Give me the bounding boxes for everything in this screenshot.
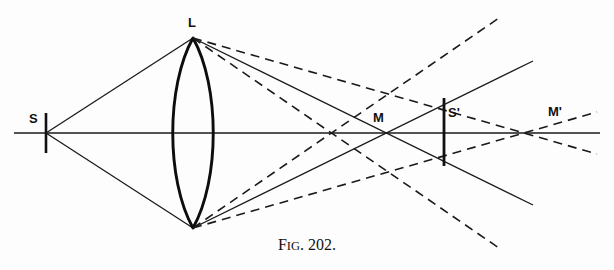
caption-smallcaps: IG [287,239,300,253]
label-axis-point-M: M [373,111,384,124]
caption-prefix: F [278,236,287,253]
caption-number: . 202. [300,236,336,253]
label-lens-L: L [188,16,196,29]
incident-ray-upper [46,38,193,133]
label-axis-point-M-prime: M' [548,105,562,118]
dashed-ray-bottom-steep [193,18,499,228]
optics-ray-diagram [0,0,614,270]
incident-ray-lower [46,133,193,228]
label-source-S: S [29,112,38,125]
label-image-S-prime: S' [448,106,460,119]
dashed-ray-top-steep [193,38,499,248]
figure-caption: FIG. 202. [0,236,614,254]
figure-202-container: S L M S' M' FIG. 202. [0,0,614,270]
